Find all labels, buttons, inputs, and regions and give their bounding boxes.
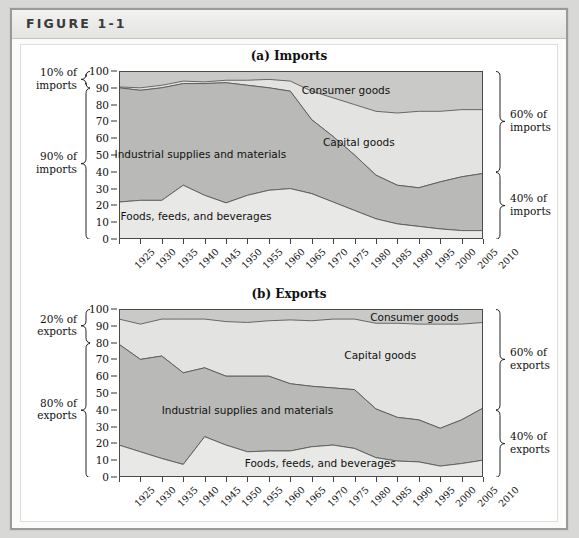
y-tick-label: 20: [96, 437, 109, 449]
y-tick-label: 10: [96, 216, 109, 228]
x-tick-label: 1955: [261, 484, 286, 509]
annotation-note-line2: exports: [21, 409, 77, 421]
y-tick-mark: [111, 342, 117, 343]
x-tick-mark: [483, 239, 484, 244]
x-tick-label: 1945: [218, 484, 243, 509]
y-tick-mark: [111, 104, 117, 105]
x-tick-mark: [312, 239, 313, 244]
x-tick-mark: [119, 477, 120, 482]
annotation-note-line2: imports: [21, 163, 77, 175]
x-tick-label: 2005: [475, 246, 500, 271]
x-tick-label: 2010: [496, 484, 521, 509]
y-tick-label: 80: [96, 99, 109, 111]
x-tick-mark: [119, 239, 120, 244]
x-tick-label: 2010: [496, 246, 521, 271]
stacked-area-svg: [119, 309, 483, 477]
x-tick-label: 1990: [410, 246, 435, 271]
annotation-bracket-left: [81, 343, 91, 477]
y-tick-label: 0: [102, 471, 109, 483]
y-tick-mark: [111, 188, 117, 189]
annotation-note-line2: imports: [510, 205, 551, 217]
y-tick-label: 0: [102, 233, 109, 245]
x-tick-mark: [269, 477, 270, 482]
x-tick-label: 1925: [132, 246, 157, 271]
x-tick-label: 1975: [346, 246, 371, 271]
annotation-bracket-left: [81, 88, 91, 239]
y-tick-label: 70: [96, 115, 109, 127]
x-tick-label: 1945: [218, 246, 243, 271]
x-tick-label: 1995: [432, 484, 457, 509]
x-tick-label: 1990: [410, 484, 435, 509]
x-tick-label: 1925: [132, 484, 157, 509]
y-tick-label: 90: [96, 82, 109, 94]
y-tick-label: 60: [96, 132, 109, 144]
annotation-bracket-right: [495, 71, 505, 172]
x-tick-label: 1980: [368, 246, 393, 271]
panel-title-exports: (b) Exports: [21, 287, 557, 301]
figure-header: FIGURE 1-1: [12, 10, 566, 39]
y-tick-label: 80: [96, 337, 109, 349]
x-tick-mark: [205, 477, 206, 482]
y-tick-label: 40: [96, 404, 109, 416]
y-tick-label: 30: [96, 421, 109, 433]
x-tick-mark: [162, 477, 163, 482]
x-tick-mark: [183, 239, 184, 244]
x-tick-label: 1970: [325, 484, 350, 509]
y-tick-mark: [111, 71, 117, 72]
x-tick-mark: [376, 477, 377, 482]
x-tick-label: 1985: [389, 246, 414, 271]
x-tick-mark: [290, 239, 291, 244]
y-tick-label: 20: [96, 199, 109, 211]
y-tick-mark: [111, 426, 117, 427]
x-tick-label: 2000: [453, 246, 478, 271]
annotation-note-line2: exports: [510, 443, 550, 455]
x-tick-label: 1960: [282, 484, 307, 509]
y-tick-label: 90: [96, 320, 109, 332]
x-tick-label: 1940: [196, 246, 221, 271]
x-tick-mark: [290, 477, 291, 482]
panel-imports: (a) Imports 0102030405060708090100 19251…: [21, 45, 557, 283]
annotation-bracket-right: [495, 309, 505, 410]
series-area-label: Industrial supplies and materials: [162, 404, 334, 416]
x-tick-mark: [397, 239, 398, 244]
x-tick-mark: [376, 239, 377, 244]
x-tick-label: 1955: [261, 246, 286, 271]
x-tick-mark: [247, 239, 248, 244]
x-tick-label: 2000: [453, 484, 478, 509]
figure-frame: FIGURE 1-1 (a) Imports 01020304050607080…: [10, 8, 568, 530]
x-tick-label: 1970: [325, 246, 350, 271]
x-tick-mark: [269, 239, 270, 244]
x-tick-mark: [462, 477, 463, 482]
y-tick-mark: [111, 309, 117, 310]
y-tick-label: 70: [96, 353, 109, 365]
annotation-bracket-right: [495, 172, 505, 239]
y-tick-mark: [111, 138, 117, 139]
y-tick-mark: [111, 460, 117, 461]
x-tick-mark: [440, 477, 441, 482]
annotation-bracket-right: [495, 410, 505, 477]
series-area-label: Capital goods: [323, 136, 395, 148]
annotation-note: 40% ofimports: [510, 192, 551, 217]
figure-label: FIGURE 1-1: [26, 16, 127, 31]
x-tick-label: 1960: [282, 246, 307, 271]
x-tick-label: 2005: [475, 484, 500, 509]
x-tick-mark: [226, 477, 227, 482]
series-area-label: Consumer goods: [302, 84, 391, 96]
x-tick-mark: [462, 239, 463, 244]
x-tick-mark: [205, 239, 206, 244]
x-tick-mark: [397, 477, 398, 482]
x-tick-mark: [333, 477, 334, 482]
y-tick-label: 30: [96, 183, 109, 195]
x-tick-mark: [312, 477, 313, 482]
y-tick-mark: [111, 443, 117, 444]
y-tick-label: 50: [96, 149, 109, 161]
annotation-note-line1: 10% of: [21, 66, 77, 78]
annotation-note-line1: 60% of: [510, 108, 551, 120]
annotation-note: 10% ofimports: [21, 66, 77, 91]
annotation-note-line2: exports: [21, 325, 77, 337]
annotation-note-line1: 60% of: [510, 346, 550, 358]
series-area-label: Foods, feeds, and beverages: [245, 457, 396, 469]
annotation-note-line2: imports: [510, 121, 551, 133]
y-tick-mark: [111, 409, 117, 410]
annotation-note-line2: exports: [510, 359, 550, 371]
